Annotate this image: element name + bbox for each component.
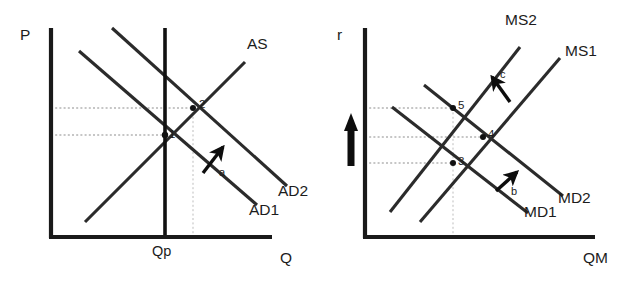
point-label-1: 1 (169, 128, 175, 140)
curve-label-md1: MD1 (524, 203, 557, 221)
curve-label-as: AS (247, 35, 268, 53)
right-x-axis-label: QM (583, 249, 608, 267)
shift-arrow-c (492, 77, 510, 102)
curve-ad1 (79, 51, 257, 205)
point-label-2: 2 (199, 98, 205, 110)
equilibrium-point-3-marker (450, 160, 456, 166)
equilibrium-point-5-marker (450, 105, 456, 111)
arrow-label-b: b (511, 185, 517, 197)
point-label-4: 4 (488, 128, 494, 140)
curve-label-ms1: MS1 (565, 42, 597, 60)
left-x-axis-label: Q (280, 249, 292, 267)
curve-label-ad1: AD1 (249, 201, 279, 219)
curve-label-md2: MD2 (558, 189, 591, 207)
figure-canvas: P Q Qp AS AD1 AD2 1 2 a r QM MS2 MS1 MD1… (0, 0, 639, 290)
diagram-svg (0, 0, 639, 290)
equilibrium-point-2-marker (190, 105, 196, 111)
arrow-label-a: a (219, 166, 225, 178)
equilibrium-point-4-marker (480, 134, 486, 140)
curve-label-ad2: AD2 (278, 182, 308, 200)
arrow-label-c: c (500, 68, 506, 80)
interest-rate-increase-arrow (344, 113, 358, 166)
point-label-3: 3 (458, 155, 464, 167)
equilibrium-point-1-marker (162, 132, 168, 138)
right-y-axis-label: r (337, 26, 342, 44)
point-label-5: 5 (458, 99, 464, 111)
left-y-axis-label: P (20, 26, 30, 44)
tick-label-qp: Qp (152, 243, 171, 259)
curve-label-ms2: MS2 (505, 11, 537, 29)
